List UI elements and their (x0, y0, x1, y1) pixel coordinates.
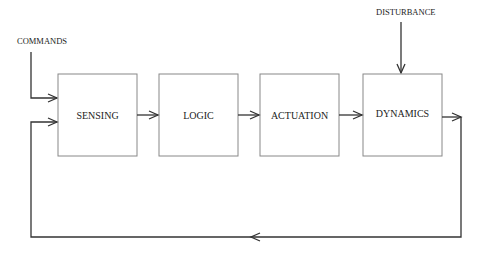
block-logic-label: LOGIC (183, 110, 214, 121)
block-dynamics-label: DYNAMICS (376, 108, 429, 119)
arrow-dynamics-output (442, 113, 461, 121)
commands-label: COMMANDS (17, 36, 67, 46)
block-diagram: COMMANDS DISTURBANCE SENSING LOGIC ACTUA… (0, 0, 480, 253)
block-dynamics: DYNAMICS (363, 74, 442, 156)
block-logic: LOGIC (159, 74, 238, 156)
arrow-sensing-to-logic (137, 111, 158, 119)
block-actuation: ACTUATION (260, 74, 339, 156)
arrow-actuation-to-dynamics (339, 111, 362, 119)
disturbance-label: DISTURBANCE (376, 7, 436, 17)
commands-arrow (31, 52, 57, 102)
arrow-logic-to-actuation (238, 111, 259, 119)
block-sensing-label: SENSING (76, 110, 118, 121)
block-sensing: SENSING (58, 74, 137, 156)
disturbance-arrow (397, 22, 405, 73)
block-actuation-label: ACTUATION (271, 110, 328, 121)
